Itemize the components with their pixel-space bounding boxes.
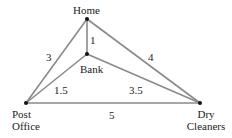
node-dry-cleaners [198,101,202,105]
weight-home-bank: 1 [90,34,96,46]
bank-label: Bank [80,63,103,75]
weight-bank-post-office: 1.5 [54,84,68,96]
node-bank [85,52,89,56]
node-home [85,17,89,21]
weight-home-dry-cleaners: 4 [148,51,154,63]
weight-post-office-dry-cleaners: 5 [109,109,115,121]
dry-cleaners-label-line1: Dry [182,108,230,120]
weight-bank-dry-cleaners: 3.5 [129,84,143,96]
home-label: Home [73,4,100,16]
post-office-label-line2: Office [12,120,40,132]
dry-cleaners-label-line2: Cleaners [182,120,230,132]
post-office-label: Post Office [12,108,40,132]
post-office-label-line1: Post [12,108,40,120]
node-post-office [24,101,28,105]
dry-cleaners-label: Dry Cleaners [182,108,230,132]
weight-home-post-office: 3 [46,51,52,63]
